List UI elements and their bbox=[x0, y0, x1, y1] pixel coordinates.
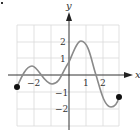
end-endpoint-dot bbox=[116, 94, 122, 100]
x-axis-arrow-icon bbox=[124, 72, 133, 78]
tick-y-1: 1 bbox=[60, 54, 66, 64]
tick-x-neg2: −2 bbox=[27, 78, 40, 88]
y-axis-arrow-icon bbox=[66, 12, 72, 21]
function-graph: x y −2 1 2 2 1 −1 −2 bbox=[0, 0, 140, 135]
y-axis-label: y bbox=[65, 0, 72, 11]
tick-y-neg2: −2 bbox=[55, 104, 68, 114]
start-endpoint-dot bbox=[14, 84, 20, 90]
tick-y-neg1: −1 bbox=[55, 88, 68, 98]
tick-x-2: 2 bbox=[100, 78, 106, 88]
x-axis-label: x bbox=[135, 69, 140, 80]
tick-y-2: 2 bbox=[60, 37, 66, 47]
tick-x-1: 1 bbox=[83, 78, 89, 88]
